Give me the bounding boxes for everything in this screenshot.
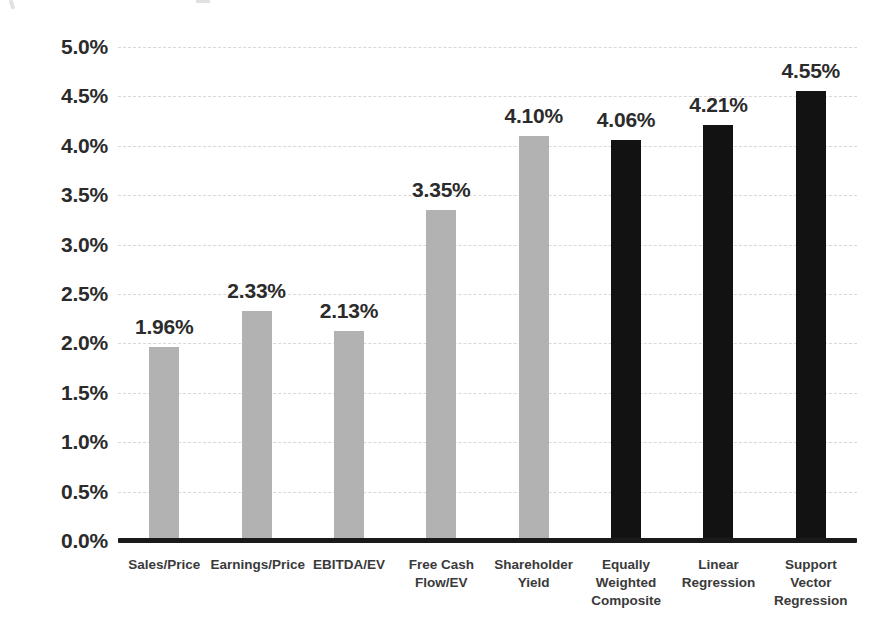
bar-value-label: 4.06% [597, 108, 656, 132]
bar-value-label: 4.21% [689, 93, 748, 117]
x-axis-category-label: Equally Weighted Composite [580, 556, 672, 610]
bar-value-label: 1.96% [135, 315, 194, 339]
x-axis-category-label: EBITDA/EV [303, 556, 395, 574]
y-axis-tick-label: 5.0% [8, 35, 108, 59]
y-axis-tick-label: 1.0% [8, 430, 108, 454]
bar[interactable] [611, 140, 641, 541]
y-axis-tick-label: 4.5% [8, 84, 108, 108]
y-axis-tick-label: 0.0% [8, 529, 108, 553]
x-axis-category-label: Sales/Price [118, 556, 210, 574]
y-axis-tick-label: 2.0% [8, 331, 108, 355]
bar-value-label: 3.35% [412, 178, 471, 202]
bar-group: 4.55% [765, 47, 857, 541]
x-axis-category-label: Shareholder Yield [488, 556, 580, 592]
y-axis-tick-label: 3.5% [8, 183, 108, 207]
bar-group: 4.06% [580, 47, 672, 541]
y-axis-tick-label: 1.5% [8, 381, 108, 405]
y-axis-tick-label: 2.5% [8, 282, 108, 306]
y-axis-tick-label: 0.5% [8, 480, 108, 504]
bar-group: 3.35% [395, 47, 487, 541]
bar-value-label: 4.10% [504, 104, 563, 128]
bar-group: 2.13% [303, 47, 395, 541]
x-axis-category-label: Earnings/Price [210, 556, 302, 574]
bar[interactable] [796, 91, 826, 541]
bar-chart: 5.0%4.5%4.0%3.5%3.0%2.5%2.0%1.5%1.0%0.5%… [0, 0, 887, 622]
scan-artifact-center [196, 0, 210, 3]
bar-group: 1.96% [118, 47, 210, 541]
bar[interactable] [149, 347, 179, 541]
bar-group: 4.21% [672, 47, 764, 541]
bar-value-label: 2.13% [320, 299, 379, 323]
bar-group: 4.10% [488, 47, 580, 541]
y-axis-tick-label: 4.0% [8, 134, 108, 158]
bar-value-label: 2.33% [227, 279, 286, 303]
y-axis: 5.0%4.5%4.0%3.5%3.0%2.5%2.0%1.5%1.0%0.5%… [0, 0, 108, 622]
bar[interactable] [519, 136, 549, 541]
x-axis-line [118, 538, 857, 543]
x-axis-category-label: Free Cash Flow/EV [395, 556, 487, 592]
bar[interactable] [242, 311, 272, 541]
x-axis-category-label: Support Vector Regression [765, 556, 857, 610]
plot-area: 1.96%2.33%2.13%3.35%4.10%4.06%4.21%4.55% [118, 47, 857, 541]
bar[interactable] [703, 125, 733, 541]
bar[interactable] [334, 331, 364, 541]
y-axis-tick-label: 3.0% [8, 233, 108, 257]
bar-value-label: 4.55% [782, 59, 841, 83]
bar-group: 2.33% [210, 47, 302, 541]
x-axis-category-label: Linear Regression [672, 556, 764, 592]
bar[interactable] [426, 210, 456, 541]
